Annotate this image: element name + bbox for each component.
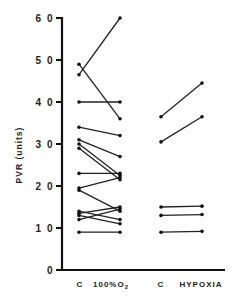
data-point [77, 218, 81, 222]
paired-line [161, 206, 202, 207]
x-label-100-o2-sub: 2 [125, 284, 129, 290]
data-series [77, 16, 204, 234]
data-point [77, 125, 81, 129]
paired-line [161, 117, 202, 142]
data-point [118, 16, 122, 20]
x-label-control-1: C [77, 280, 84, 289]
y-tick-label: 6 0 [36, 13, 54, 24]
data-point [77, 73, 81, 77]
data-point [118, 218, 122, 222]
data-point [77, 188, 81, 192]
data-point [118, 134, 122, 138]
data-point [200, 204, 204, 208]
paired-line [79, 64, 120, 119]
data-point [77, 138, 81, 142]
data-point [159, 214, 163, 218]
data-point [77, 100, 81, 104]
y-tick-label: 4 0 [36, 97, 54, 108]
x-label-100-o2-main: 100%O [93, 280, 125, 289]
data-point [77, 142, 81, 146]
data-point [159, 140, 163, 144]
y-tick-label: 1 0 [36, 223, 54, 234]
data-point [159, 205, 163, 209]
y-tick-label: 5 0 [36, 55, 54, 66]
data-point [77, 62, 81, 66]
data-point [118, 100, 122, 104]
x-label-control-2: C [158, 280, 165, 289]
paired-line [161, 231, 202, 232]
data-point [118, 207, 122, 211]
data-point [118, 176, 122, 180]
data-point [77, 230, 81, 234]
data-point [77, 172, 81, 176]
y-axis: 01 02 03 04 05 06 0 [36, 13, 62, 276]
data-point [77, 214, 81, 218]
paired-line [79, 148, 120, 180]
data-point [200, 213, 204, 217]
x-label-hypoxia: HYPOXIA [179, 280, 222, 289]
paired-line [79, 178, 120, 189]
paired-line [79, 127, 120, 135]
data-point [118, 172, 122, 176]
data-point [200, 81, 204, 85]
data-point [77, 146, 81, 150]
data-point [200, 115, 204, 119]
paired-line [161, 83, 202, 117]
y-axis-title: PVR (units) [14, 127, 24, 184]
data-point [200, 230, 204, 234]
data-point [159, 115, 163, 119]
data-point [118, 230, 122, 234]
paired-line [79, 18, 120, 75]
data-point [118, 155, 122, 159]
y-tick-label: 3 0 [36, 139, 54, 150]
y-tick-label: 2 0 [36, 181, 54, 192]
paired-line [161, 215, 202, 216]
y-tick-label: 0 [47, 265, 54, 276]
x-label-100-o2: 100%O2 [93, 280, 129, 290]
data-point [159, 230, 163, 234]
paired-line [79, 215, 120, 223]
paired-line-chart: 01 02 03 04 05 06 0 PVR (units) C 100%O2… [0, 0, 234, 299]
data-point [118, 117, 122, 121]
data-point [118, 222, 122, 226]
